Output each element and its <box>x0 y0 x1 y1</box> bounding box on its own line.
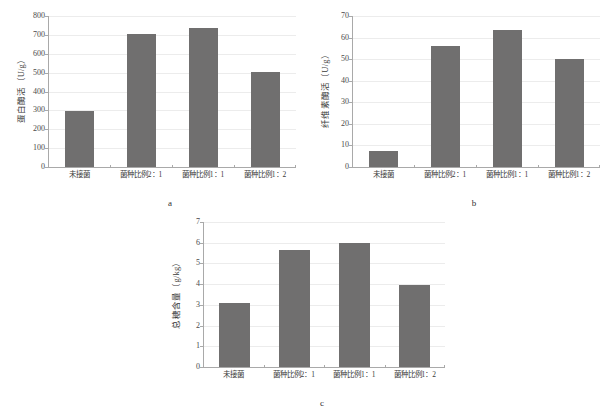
bar-series <box>49 16 296 167</box>
y-axis-tick-label: 60 <box>313 34 349 42</box>
bar <box>431 46 460 167</box>
y-axis-tickmark <box>45 92 48 93</box>
y-axis-tick-label: 20 <box>313 120 349 128</box>
chart-panel-c: 总糖含量（g/kg） 01234567 未接菌菌种比例2：1菌种比例1：1菌种比… <box>155 212 457 412</box>
y-axis-tickmark <box>349 102 352 103</box>
x-axis-tickmark <box>172 165 173 168</box>
y-axis-tickmark <box>349 145 352 146</box>
panel-caption: b <box>348 198 600 208</box>
y-axis-tick-label: 6 <box>164 239 200 247</box>
bar-slot <box>264 222 324 367</box>
y-axis-tickmark <box>45 148 48 149</box>
bar <box>279 250 310 367</box>
bar <box>555 59 584 167</box>
x-axis-tick-slot <box>48 165 110 168</box>
y-axis-tick-label: 300 <box>9 106 45 114</box>
bar-slot <box>111 16 173 167</box>
x-axis-tick-label: 菌种比例2：1 <box>110 170 172 180</box>
x-axis-tick-slot <box>264 365 325 368</box>
x-axis-tickmark <box>234 165 235 168</box>
bar-slot <box>234 16 296 167</box>
y-axis-tickmark <box>45 16 48 17</box>
y-axis-tick-label: 2 <box>164 322 200 330</box>
y-axis-tickmark <box>45 54 48 55</box>
x-axis-tick-label: 菌种比例1：1 <box>172 170 234 180</box>
bar-slot <box>49 16 111 167</box>
y-axis-tick-label: 4 <box>164 280 200 288</box>
bar-series <box>353 16 600 167</box>
x-axis-tick-label: 菌种比例2：1 <box>264 370 325 380</box>
bar <box>127 34 156 167</box>
y-axis-tickmark <box>200 243 203 244</box>
y-axis-ticks: 010203040506070 <box>313 16 349 167</box>
bar-slot <box>173 16 235 167</box>
bar <box>493 30 522 167</box>
y-axis-tick-label: 0 <box>9 163 45 171</box>
y-axis-tick-label: 5 <box>164 259 200 267</box>
y-axis-tickmark <box>200 326 203 327</box>
x-axis-tickmark <box>48 165 49 168</box>
x-axis-tickmark <box>538 165 539 168</box>
x-axis-tick-label: 菌种比例1：2 <box>385 370 446 380</box>
x-axis-tick-label: 菌种比例1：1 <box>476 170 538 180</box>
bar-series <box>204 222 445 367</box>
x-axis-tickmarks <box>352 165 600 168</box>
bar-slot <box>325 222 385 367</box>
y-axis-tick-label: 0 <box>164 363 200 371</box>
x-axis-labels: 未接菌菌种比例2：1菌种比例1：1菌种比例1：2 <box>203 370 445 386</box>
x-axis-tickmark <box>295 165 296 168</box>
x-axis-tick-slot <box>352 165 414 168</box>
y-axis-tickmark <box>45 110 48 111</box>
x-axis-labels: 未接菌菌种比例2：1菌种比例1：1菌种比例1：2 <box>352 170 600 186</box>
y-axis-tickmark <box>200 346 203 347</box>
bar <box>339 243 370 367</box>
bar-slot <box>204 222 264 367</box>
x-axis-tickmark <box>324 365 325 368</box>
bar <box>65 111 94 167</box>
y-axis-ticks: 0100200300400500600700800 <box>9 16 45 167</box>
y-axis-tick-label: 50 <box>313 55 349 63</box>
y-axis-tickmark <box>349 124 352 125</box>
x-axis-tick-label: 未接菌 <box>203 370 264 380</box>
y-axis-tick-label: 1 <box>164 342 200 350</box>
x-axis-tick-slot <box>538 165 600 168</box>
bar-slot <box>538 16 600 167</box>
y-axis-ticks: 01234567 <box>164 222 200 367</box>
x-axis-tickmark <box>352 165 353 168</box>
bar-slot <box>385 222 445 367</box>
y-axis-tickmark <box>45 73 48 74</box>
x-axis-tick-label: 未接菌 <box>352 170 414 180</box>
bar <box>219 303 250 367</box>
y-axis-tickmark <box>45 35 48 36</box>
y-axis-tickmark <box>349 16 352 17</box>
y-axis-tick-label: 400 <box>9 88 45 96</box>
y-axis-tick-label: 600 <box>9 50 45 58</box>
y-axis-tickmark <box>200 284 203 285</box>
x-axis-tick-label: 菌种比例1：2 <box>538 170 600 180</box>
x-axis-tick-label: 菌种比例1：2 <box>234 170 296 180</box>
x-axis-tickmark <box>264 365 265 368</box>
y-axis-tick-label: 200 <box>9 125 45 133</box>
x-axis-tick-slot <box>203 365 264 368</box>
x-axis-tickmark <box>385 365 386 368</box>
plot-area: 010203040506070 <box>352 16 600 168</box>
x-axis-tick-slot <box>414 165 476 168</box>
y-axis-tickmark <box>200 305 203 306</box>
bar-slot <box>415 16 477 167</box>
y-axis-tickmark <box>349 59 352 60</box>
y-axis-tick-label: 30 <box>313 98 349 106</box>
x-axis-tickmarks <box>48 165 296 168</box>
bar <box>189 28 218 167</box>
x-axis-tickmarks <box>203 365 445 368</box>
chart-panel-a: 蛋白酶活（U/g） 0100200300400500600700800 未接菌菌… <box>4 6 306 210</box>
x-axis-tick-label: 菌种比例1：1 <box>324 370 385 380</box>
x-axis-tick-slot <box>324 365 385 368</box>
x-axis-tick-slot <box>110 165 172 168</box>
plot-area: 0100200300400500600700800 <box>48 16 296 168</box>
y-axis-tick-label: 10 <box>313 141 349 149</box>
x-axis-labels: 未接菌菌种比例2：1菌种比例1：1菌种比例1：2 <box>48 170 296 186</box>
x-axis-tick-label: 未接菌 <box>48 170 110 180</box>
bar-slot <box>477 16 539 167</box>
y-axis-tick-label: 7 <box>164 218 200 226</box>
x-axis-tickmark <box>203 365 204 368</box>
